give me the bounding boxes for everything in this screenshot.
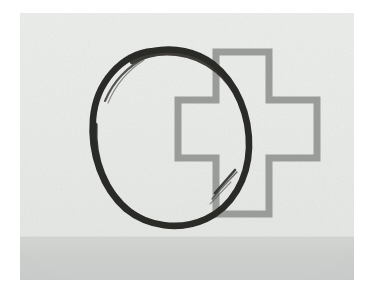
artwork-layer — [20, 13, 354, 280]
screenshot-canvas — [0, 0, 374, 302]
brush-circle-icon — [93, 50, 249, 227]
photo-frame — [20, 13, 354, 280]
